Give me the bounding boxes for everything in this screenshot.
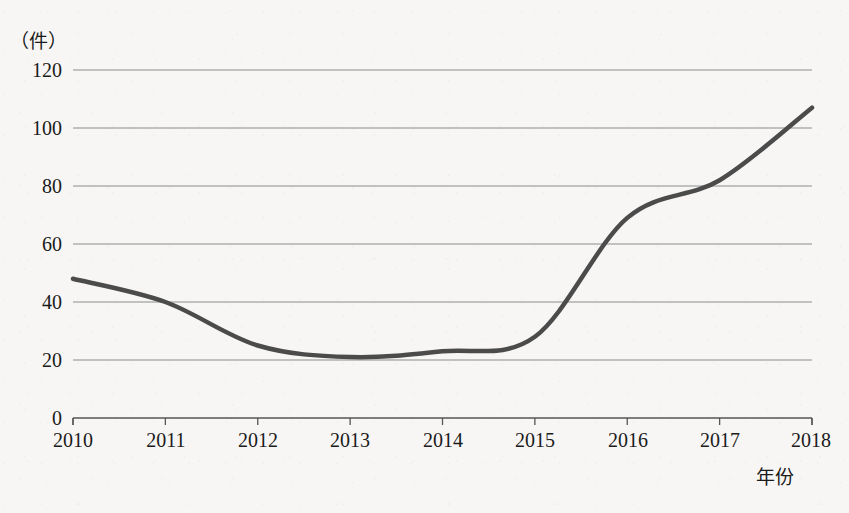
data-series-line [73,108,812,358]
x-axis-tick-marks [73,418,812,425]
plot-area [0,0,849,513]
line-chart: （件） 年份 120 100 80 60 40 20 0 2010 2011 2… [0,0,849,513]
gridlines [73,70,812,360]
